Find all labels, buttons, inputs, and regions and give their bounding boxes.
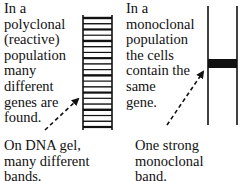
monoclonal-gel-lane bbox=[208, 6, 237, 125]
gel-diagram bbox=[0, 0, 244, 181]
monoclonal-band bbox=[208, 59, 237, 68]
polyclonal-arrow-icon bbox=[45, 99, 78, 130]
polyclonal-gel-lane bbox=[83, 15, 112, 130]
monoclonal-arrow-icon bbox=[167, 72, 203, 125]
